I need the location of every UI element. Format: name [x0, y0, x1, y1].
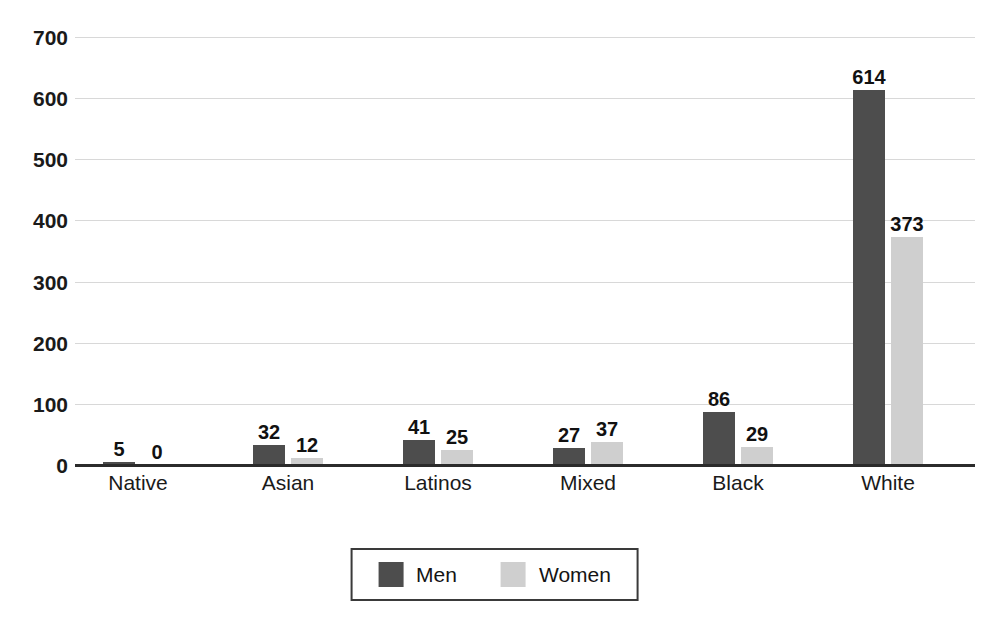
- plot-area: 5 0 32 12 41 25 27: [75, 37, 975, 465]
- y-tick-label: 500: [6, 149, 68, 170]
- y-tick-label: 200: [6, 333, 68, 354]
- bar-women[interactable]: 37: [591, 442, 623, 465]
- y-tick-label: 700: [6, 27, 68, 48]
- bar-group: 27 37: [525, 37, 675, 465]
- legend-label-women: Women: [539, 564, 611, 585]
- x-tick-label-mixed: Mixed: [508, 472, 668, 493]
- y-tick-label: 300: [6, 272, 68, 293]
- bar-chart: 700 600 500 400 300 200 100 0 5 0 32: [0, 0, 989, 627]
- bar-group: 41 25: [375, 37, 525, 465]
- legend: Men Women: [350, 548, 639, 601]
- legend-swatch-women-icon: [501, 562, 526, 587]
- bar-value-men: 86: [708, 389, 730, 409]
- bar-men[interactable]: 86: [703, 412, 735, 465]
- bar-value-women: 0: [151, 442, 162, 462]
- bar-group: 32 12: [225, 37, 375, 465]
- bar-value-men: 41: [408, 417, 430, 437]
- bar-value-men: 27: [558, 425, 580, 445]
- bar-group: 614 373: [825, 37, 975, 465]
- legend-label-men: Men: [416, 564, 457, 585]
- legend-entry-women[interactable]: Women: [501, 562, 611, 587]
- legend-entry-men[interactable]: Men: [378, 562, 457, 587]
- y-tick-label: 400: [6, 210, 68, 231]
- legend-swatch-men-icon: [378, 562, 403, 587]
- bar-group: 86 29: [675, 37, 825, 465]
- x-tick-label-latinos: Latinos: [358, 472, 518, 493]
- bar-group: 5 0: [75, 37, 225, 465]
- y-axis: 700 600 500 400 300 200 100 0: [0, 0, 68, 627]
- bar-men[interactable]: 27: [553, 448, 585, 465]
- bar-value-women: 37: [596, 419, 618, 439]
- bar-value-women: 373: [890, 214, 923, 234]
- bar-women[interactable]: 373: [891, 237, 923, 465]
- y-tick-label: 600: [6, 88, 68, 109]
- bar-value-men: 614: [852, 67, 885, 87]
- bar-value-women: 25: [446, 427, 468, 447]
- x-tick-label-black: Black: [658, 472, 818, 493]
- bar-value-women: 29: [746, 424, 768, 444]
- bar-value-men: 32: [258, 422, 280, 442]
- bar-women[interactable]: 25: [441, 450, 473, 465]
- y-tick-label: 100: [6, 394, 68, 415]
- x-axis-line: [75, 464, 975, 467]
- bar-men[interactable]: 614: [853, 90, 885, 465]
- bar-men[interactable]: 41: [403, 440, 435, 465]
- bar-men[interactable]: 32: [253, 445, 285, 465]
- x-tick-label-white: White: [808, 472, 968, 493]
- bar-value-women: 12: [296, 435, 318, 455]
- bar-women[interactable]: 29: [741, 447, 773, 465]
- bar-value-men: 5: [113, 439, 124, 459]
- x-tick-label-native: Native: [58, 472, 218, 493]
- x-tick-label-asian: Asian: [208, 472, 368, 493]
